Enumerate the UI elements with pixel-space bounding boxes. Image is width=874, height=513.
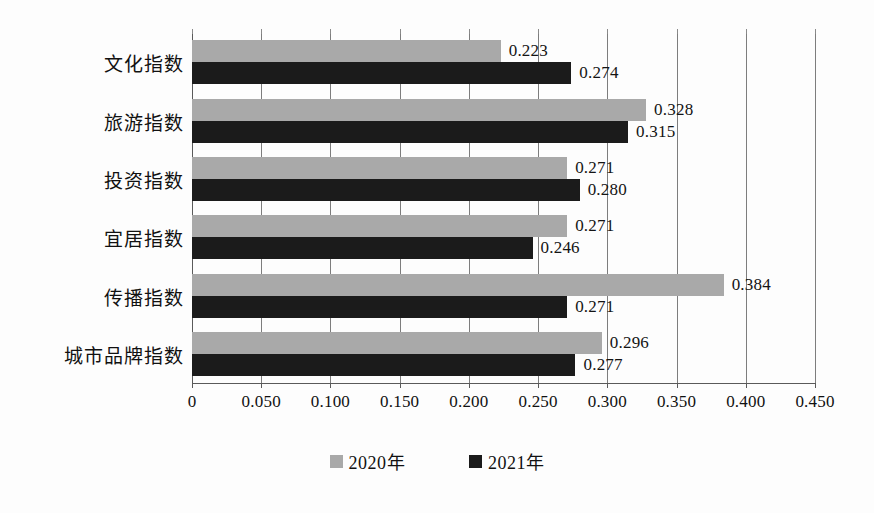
- bar-value-label: 0.315: [636, 121, 675, 143]
- y-axis-label-3: 投资指数: [8, 166, 184, 193]
- bar-value-label: 0.223: [509, 40, 548, 62]
- plot-area: 0.2230.2740.3280.3150.2710.2800.2710.246…: [192, 33, 815, 383]
- bar-2021年: [192, 62, 571, 84]
- bar-group: 0.2710.280: [192, 157, 815, 201]
- bar-value-label: 0.296: [610, 332, 649, 354]
- bar-group: 0.2230.274: [192, 40, 815, 84]
- x-axis-tick-top: [538, 29, 539, 34]
- grid-line: [330, 33, 331, 383]
- x-tick-label: 0.100: [311, 392, 350, 412]
- x-axis-tick: [746, 383, 747, 388]
- legend-swatch-icon: [330, 455, 343, 468]
- bar-group: 0.2710.246: [192, 215, 815, 259]
- x-axis-tick-top: [192, 29, 193, 34]
- y-axis-label-4: 宜居指数: [8, 224, 184, 251]
- x-axis-tick: [538, 383, 539, 388]
- bar-2021年: [192, 237, 533, 259]
- bar-value-label: 0.328: [654, 99, 693, 121]
- bar-value-label: 0.246: [541, 237, 580, 259]
- bar-value-label: 0.280: [588, 179, 627, 201]
- bar-2021年: [192, 179, 580, 201]
- y-axis-label-2: 旅游指数: [8, 108, 184, 135]
- grid-line: [192, 33, 193, 383]
- bar-2020年: [192, 274, 724, 296]
- x-axis-tick: [677, 383, 678, 388]
- bar-group: 0.3280.315: [192, 99, 815, 143]
- x-tick-label: 0.300: [588, 392, 627, 412]
- x-axis-tick-labels: 00.0500.1000.1500.2000.2500.3000.3500.40…: [0, 392, 874, 418]
- bar-2021年: [192, 296, 567, 318]
- x-axis-tick: [400, 383, 401, 388]
- bar-value-label: 0.271: [575, 157, 614, 179]
- x-tick-label: 0.150: [380, 392, 419, 412]
- x-axis-tick: [607, 383, 608, 388]
- x-tick-label: 0.050: [242, 392, 281, 412]
- grid-line: [469, 33, 470, 383]
- x-tick-label: 0.400: [726, 392, 765, 412]
- grid-line: [538, 33, 539, 383]
- x-axis-tick-top: [330, 29, 331, 34]
- bar-2020年: [192, 99, 646, 121]
- legend-item-2020年[interactable]: 2020年: [330, 448, 406, 474]
- x-axis-tick: [469, 383, 470, 388]
- legend-item-2021年[interactable]: 2021年: [469, 448, 545, 474]
- bar-2020年: [192, 215, 567, 237]
- x-tick-label: 0: [188, 392, 197, 412]
- bar-value-label: 0.274: [579, 62, 618, 84]
- y-axis-label-5: 传播指数: [8, 283, 184, 310]
- x-axis-tick-top: [400, 29, 401, 34]
- x-axis-tick-top: [815, 29, 816, 34]
- chart-legend: 2020年2021年: [0, 448, 874, 474]
- grid-line: [261, 33, 262, 383]
- grid-line: [607, 33, 608, 383]
- bar-value-label: 0.384: [732, 274, 771, 296]
- x-axis-tick: [192, 383, 193, 388]
- bar-group: 0.3840.271: [192, 274, 815, 318]
- bar-group: 0.2960.277: [192, 332, 815, 376]
- bar-2021年: [192, 121, 628, 143]
- bar-chart: 文化指数旅游指数投资指数宜居指数传播指数城市品牌指数 0.2230.2740.3…: [0, 0, 874, 513]
- x-axis-line: [192, 383, 816, 384]
- y-axis-category-labels: 文化指数旅游指数投资指数宜居指数传播指数城市品牌指数: [0, 33, 184, 383]
- y-axis-label-1: 文化指数: [8, 49, 184, 76]
- y-axis-label-6: 城市品牌指数: [8, 341, 184, 368]
- bar-value-label: 0.277: [583, 354, 622, 376]
- legend-swatch-icon: [469, 455, 482, 468]
- grid-line: [400, 33, 401, 383]
- bar-2020年: [192, 157, 567, 179]
- bar-value-label: 0.271: [575, 215, 614, 237]
- x-axis-tick: [330, 383, 331, 388]
- grid-line: [746, 33, 747, 383]
- x-axis-tick: [815, 383, 816, 388]
- x-axis-tick-top: [607, 29, 608, 34]
- bar-2021年: [192, 354, 575, 376]
- bar-2020年: [192, 40, 501, 62]
- x-tick-label: 0.350: [657, 392, 696, 412]
- x-axis-tick: [261, 383, 262, 388]
- legend-label: 2021年: [488, 448, 545, 474]
- x-axis-tick-top: [746, 29, 747, 34]
- legend-label: 2020年: [349, 448, 406, 474]
- x-tick-label: 0.200: [449, 392, 488, 412]
- grid-line: [815, 33, 816, 383]
- x-tick-label: 0.450: [795, 392, 834, 412]
- x-axis-tick-top: [677, 29, 678, 34]
- bar-value-label: 0.271: [575, 296, 614, 318]
- x-tick-label: 0.250: [518, 392, 557, 412]
- x-axis-tick-top: [469, 29, 470, 34]
- bar-2020年: [192, 332, 602, 354]
- grid-line: [677, 33, 678, 383]
- x-axis-tick-top: [261, 29, 262, 34]
